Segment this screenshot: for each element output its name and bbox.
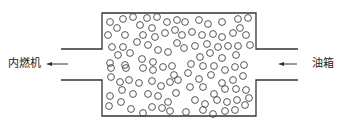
particle-circle bbox=[187, 84, 194, 91]
particle-circle bbox=[159, 105, 166, 112]
particle-circle bbox=[160, 64, 167, 71]
particle-circle bbox=[173, 90, 180, 97]
particle-circle bbox=[158, 83, 165, 90]
particle-circle bbox=[164, 19, 171, 26]
particle-circle bbox=[210, 31, 217, 38]
particle-circle bbox=[114, 25, 121, 32]
particle-circle bbox=[152, 34, 159, 41]
particle-circle bbox=[182, 19, 189, 26]
particle-circle bbox=[128, 106, 135, 113]
particle-circle bbox=[197, 54, 204, 61]
particle-circle bbox=[225, 43, 232, 50]
chamber-walls bbox=[61, 13, 298, 116]
particle-circle bbox=[119, 87, 126, 94]
particle-circle bbox=[235, 43, 242, 50]
particle-circle bbox=[222, 67, 229, 74]
particle-circle bbox=[241, 62, 248, 69]
particle-circle bbox=[120, 16, 127, 23]
particle-circle bbox=[219, 19, 226, 26]
particle-circle bbox=[214, 97, 221, 104]
particle-circle bbox=[183, 109, 190, 116]
particle-circle bbox=[232, 64, 239, 71]
particle-circle bbox=[140, 32, 147, 39]
particle-circle bbox=[107, 93, 114, 100]
particle-circle bbox=[154, 14, 161, 21]
particle-circle bbox=[155, 93, 162, 100]
engine-label: 内燃机 bbox=[8, 58, 41, 70]
particle-circle bbox=[233, 52, 240, 59]
particle-circle bbox=[219, 34, 226, 41]
particle-circle bbox=[204, 41, 211, 48]
particle-circle bbox=[234, 97, 241, 104]
particle-circle bbox=[196, 17, 203, 24]
particle-circle bbox=[137, 22, 144, 29]
particle-circle bbox=[189, 29, 196, 36]
particle-circle bbox=[247, 42, 254, 49]
particle-circle bbox=[162, 30, 169, 37]
particle-circle bbox=[130, 14, 137, 21]
particle-circle bbox=[243, 87, 250, 94]
particle-circle bbox=[230, 30, 237, 37]
chamber-outline bbox=[61, 13, 298, 116]
particle-circle bbox=[174, 17, 181, 24]
particle-circle bbox=[237, 25, 244, 32]
particle-circle bbox=[205, 21, 212, 28]
particle-circle bbox=[167, 108, 174, 115]
particle-circle bbox=[108, 74, 115, 81]
particle-circle bbox=[222, 86, 229, 93]
particle-circle bbox=[155, 47, 162, 54]
particle-circle bbox=[188, 61, 195, 68]
particle-circle bbox=[200, 63, 207, 70]
particle-circle bbox=[246, 95, 253, 102]
particle-circle bbox=[109, 44, 116, 51]
particle-circle bbox=[107, 19, 114, 26]
particle-circle bbox=[122, 32, 129, 39]
particle-circle bbox=[108, 65, 115, 72]
particle-circle bbox=[149, 104, 156, 111]
particle-circle bbox=[174, 40, 181, 47]
particle-circle bbox=[145, 91, 152, 98]
particle-circle bbox=[134, 39, 141, 46]
particle-circle bbox=[167, 79, 174, 86]
particle-bed bbox=[105, 14, 254, 118]
particle-circle bbox=[242, 102, 249, 109]
particle-circle bbox=[211, 63, 218, 70]
particle-circle bbox=[115, 52, 122, 59]
particle-circle bbox=[181, 45, 188, 52]
particle-circle bbox=[150, 67, 157, 74]
particle-circle bbox=[106, 103, 113, 110]
particle-circle bbox=[192, 43, 199, 50]
particle-circle bbox=[179, 32, 186, 39]
particle-circle bbox=[150, 59, 157, 66]
particle-circle bbox=[127, 50, 134, 57]
particle-circle bbox=[126, 77, 133, 84]
particle-circle bbox=[232, 107, 239, 114]
particle-circle bbox=[245, 15, 252, 22]
particle-circle bbox=[165, 49, 172, 56]
filter-chamber-diagram bbox=[0, 0, 342, 127]
particle-circle bbox=[172, 27, 179, 34]
particle-circle bbox=[199, 32, 206, 39]
particle-circle bbox=[144, 15, 151, 22]
particle-circle bbox=[105, 32, 112, 39]
particle-circle bbox=[230, 77, 237, 84]
particle-circle bbox=[136, 80, 143, 87]
particle-circle bbox=[207, 50, 214, 57]
particle-circle bbox=[175, 77, 182, 84]
fuel-tank-label: 油箱 bbox=[312, 58, 334, 70]
particle-circle bbox=[140, 65, 147, 72]
particle-circle bbox=[196, 76, 203, 83]
particle-circle bbox=[235, 16, 242, 23]
particle-circle bbox=[118, 99, 125, 106]
particle-circle bbox=[149, 78, 156, 85]
particle-circle bbox=[130, 91, 137, 98]
particle-circle bbox=[233, 86, 240, 93]
outflow-arrow-head-icon bbox=[46, 62, 52, 66]
particle-circle bbox=[169, 63, 176, 70]
particle-circle bbox=[165, 99, 172, 106]
particle-circle bbox=[149, 25, 156, 32]
particle-circle bbox=[240, 73, 247, 80]
particle-circle bbox=[222, 108, 229, 115]
particle-circle bbox=[200, 84, 207, 91]
particle-circle bbox=[185, 70, 192, 77]
